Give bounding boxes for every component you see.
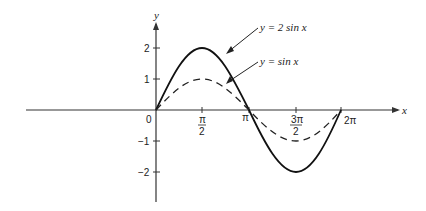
arrow-2sinx	[228, 28, 258, 52]
x-label-pi: π	[242, 112, 249, 123]
x-axis-arrow-icon	[392, 107, 400, 113]
y-axis-label: y	[153, 9, 159, 21]
y-label-2: 2	[144, 43, 150, 54]
x-axis-label: x	[401, 104, 407, 116]
x-label-pi-half-num: π	[199, 114, 206, 125]
x-label-3pi-half-num: 3π	[291, 114, 304, 125]
annotation-sinx: y = sin x	[259, 55, 298, 67]
x-label-3pi-half-den: 2	[293, 126, 299, 137]
y-axis-arrow-icon	[153, 22, 159, 30]
annotation-2sinx: y = 2 sin x	[259, 21, 307, 33]
y-label-m2: −2	[138, 167, 150, 178]
x-label-pi-half-den: 2	[199, 126, 205, 137]
arrow-sinx	[228, 62, 258, 82]
x-label-2pi: 2π	[344, 115, 357, 126]
y-label-m1: −1	[138, 136, 150, 147]
y-label-1: 1	[144, 74, 150, 85]
sine-chart: y x 0 2 1 −1 −2 π 2 π 3π 2 2π y = 2 sin …	[0, 0, 426, 211]
arrowhead-2sinx-icon	[226, 46, 234, 54]
origin-label: 0	[146, 114, 152, 125]
